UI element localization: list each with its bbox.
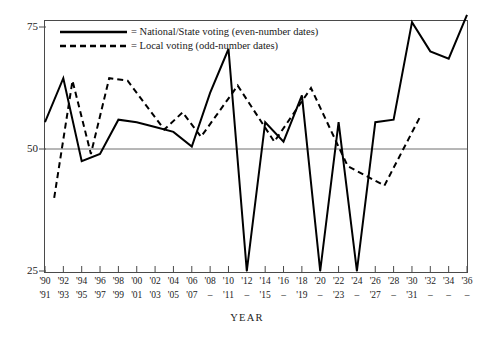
x-axis-odd-year-row: '91'93'95'97'99'01'03'05'07–'11–'15–'19–… (0, 290, 494, 304)
y-tick-label-25: 25 (12, 264, 38, 276)
legend-label-national-state: = National/State voting (even-number dat… (131, 26, 318, 37)
chart-figure: = National/State voting (even-number dat… (0, 0, 494, 339)
x-axis-even-year-row: '90'92'94'96'98'00'02'04'06'08'10'12'14'… (0, 276, 494, 290)
x-axis-title: YEAR (0, 312, 494, 323)
legend-label-local: = Local voting (odd-number dates) (131, 40, 278, 51)
x-tick-label-even: '36 (456, 276, 478, 286)
x-tick-label-odd: – (456, 290, 478, 300)
y-tick-label-75: 75 (12, 20, 38, 32)
y-tick-label-50: 50 (12, 142, 38, 154)
